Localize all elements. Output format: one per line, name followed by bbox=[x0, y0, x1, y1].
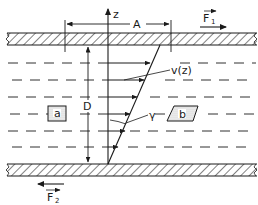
gap-label: D bbox=[83, 100, 91, 113]
gap-dimension: D bbox=[83, 47, 91, 162]
force-f2-label: F bbox=[47, 191, 53, 204]
area-label: A bbox=[133, 18, 141, 31]
force-f1-label: F bbox=[203, 12, 209, 25]
force-f2-subscript: 2 bbox=[55, 197, 59, 205]
shear-angle: γ bbox=[110, 109, 156, 124]
z-axis: z bbox=[108, 8, 119, 164]
fluid-element-b: b bbox=[167, 106, 198, 121]
force-f2: F 2 bbox=[38, 184, 64, 205]
velocity-label: v(z) bbox=[171, 64, 192, 77]
z-axis-label: z bbox=[113, 8, 119, 21]
couette-flow-diagram: z A D v(z) γ a bbox=[0, 0, 258, 205]
velocity-profile: v(z) bbox=[108, 45, 192, 164]
element-a-label: a bbox=[54, 107, 61, 120]
element-b-label: b bbox=[179, 108, 186, 121]
fluid-element-a: a bbox=[48, 106, 66, 121]
force-f1-subscript: 1 bbox=[211, 18, 215, 26]
bottom-plate bbox=[6, 164, 257, 176]
force-f1: F 1 bbox=[200, 11, 226, 27]
fluid-streamlines bbox=[8, 63, 256, 147]
top-plate bbox=[6, 33, 257, 45]
shear-angle-label: γ bbox=[149, 109, 156, 122]
